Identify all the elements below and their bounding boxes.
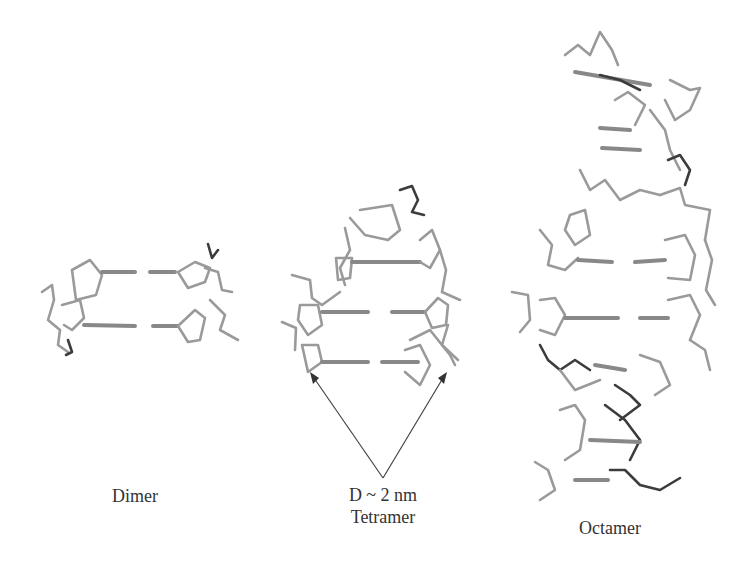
tetramer-structure [282,186,460,478]
tetramer-annotation: D ~ 2 nm [328,484,438,506]
dimer-structure [42,244,238,355]
molecular-structures-figure: Dimer D ~ 2 nm Tetramer Octamer [0,0,755,565]
dimer-label: Dimer [95,485,175,507]
tetramer-label: Tetramer [328,506,438,528]
octamer-label: Octamer [565,517,655,539]
octamer-structure [512,32,715,500]
